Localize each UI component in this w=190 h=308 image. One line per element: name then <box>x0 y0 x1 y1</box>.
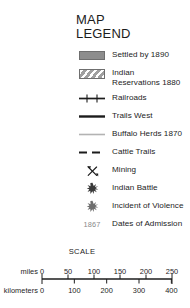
legend-item-reservations: Indian Reservations 1880 <box>76 67 190 87</box>
scale-tick-label: 200 <box>140 267 152 276</box>
scale-tick-label: 200 <box>101 286 113 295</box>
legend-item-incident-of-violence: Incident of Violence <box>76 200 190 213</box>
legend-item-label: Railroads <box>108 92 147 103</box>
legend-item-label: Trails West <box>108 110 153 121</box>
legend-item-railroads: Railroads <box>76 92 190 105</box>
area-solid-gray-icon <box>76 49 108 62</box>
legend-item-label: Indian Battle <box>108 182 158 193</box>
legend-item-mining: Mining <box>76 164 190 177</box>
scale-tick-label: 100 <box>68 286 80 295</box>
date-sample-label: 1867 <box>84 220 101 229</box>
date-text-icon: 1867 <box>76 218 108 231</box>
scale-tick-label: 150 <box>114 267 126 276</box>
scale-tick-label: 50 <box>64 267 72 276</box>
scale-tick-label: 300 <box>133 286 145 295</box>
scale-tick-label: 250 <box>166 267 178 276</box>
title-line-map: MAP <box>76 13 131 27</box>
scale-caption: SCALE <box>0 247 164 256</box>
legend-item-label: Buffalo Herds 1870 <box>108 128 182 139</box>
legend-item-label: Mining <box>108 164 136 175</box>
title-line-legend: LEGEND <box>76 27 131 41</box>
legend-item-label: Indian Reservations 1880 <box>108 67 180 87</box>
starburst-dark-icon <box>76 182 108 195</box>
legend-item-indian-battle: Indian Battle <box>76 182 190 195</box>
scale-tick-label: 100 <box>88 267 100 276</box>
legend-item-label: Settled by 1890 <box>108 49 169 60</box>
mining-pick-icon <box>76 164 108 177</box>
dashed-line-icon <box>76 146 108 159</box>
area-hatched-icon <box>76 67 108 80</box>
thin-gray-line-icon <box>76 128 108 141</box>
scale-tick-label: 400 <box>165 286 177 295</box>
starburst-gray-icon <box>76 200 108 213</box>
legend-item-settled: Settled by 1890 <box>76 49 190 62</box>
legend-item-label: Incident of Violence <box>108 200 184 211</box>
legend-entry-list: Settled by 1890 Indian Reservations 1880… <box>76 49 190 236</box>
page-title: MAP LEGEND <box>76 13 131 40</box>
legend-item-buffalo-herds: Buffalo Herds 1870 <box>76 128 190 141</box>
legend-item-trails-west: Trails West <box>76 110 190 123</box>
scale-graphic: miles 0 kilometers 0 50100150200250 1002… <box>0 258 190 300</box>
legend-item-label: Cattle Trails <box>108 146 155 157</box>
legend-item-dates-of-admission: 1867 Dates of Admission <box>76 218 190 231</box>
scale-rule-graphic <box>0 258 190 300</box>
legend-item-label: Dates of Admission <box>108 218 182 229</box>
solid-thick-line-icon <box>76 110 108 123</box>
legend-item-cattle-trails: Cattle Trails <box>76 146 190 159</box>
railroad-line-icon <box>76 92 108 105</box>
